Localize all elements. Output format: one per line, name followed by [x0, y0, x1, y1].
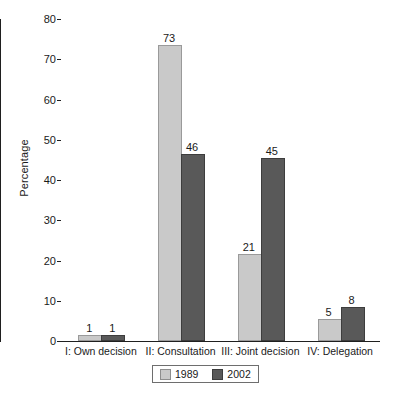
bar — [341, 307, 365, 341]
y-axis-tick-label: 20 — [0, 256, 56, 266]
legend-label: 2002 — [227, 369, 250, 380]
y-axis-tick-label: 80 — [0, 14, 56, 24]
chart-legend: 19892002 — [152, 365, 259, 383]
x-axis-line — [61, 341, 380, 342]
bar-value-label: 45 — [255, 146, 289, 157]
bar — [158, 45, 182, 341]
bar — [318, 319, 342, 341]
y-axis-tick-label: 30 — [0, 215, 56, 225]
bar — [101, 335, 125, 341]
y-axis-tick-mark — [57, 341, 61, 342]
y-axis-tick-label: 40 — [0, 175, 56, 185]
y-axis-tick-label: 70 — [0, 54, 56, 64]
bar-value-label: 8 — [335, 295, 369, 306]
y-axis-tick-label: 50 — [0, 135, 56, 145]
y-axis-tick-label: 60 — [0, 95, 56, 105]
bar-value-label: 73 — [152, 33, 186, 44]
legend-swatch-icon — [212, 369, 223, 380]
legend-swatch-icon — [160, 369, 171, 380]
plot-area: 117346214558 — [61, 19, 380, 341]
bar — [238, 254, 262, 341]
legend-label: 1989 — [175, 369, 198, 380]
legend-entry: 2002 — [212, 369, 250, 380]
bar-value-label: 1 — [95, 323, 129, 334]
bar-chart: Percentage 01020304050607080 11734621455… — [0, 0, 399, 404]
bar-value-label: 46 — [175, 142, 209, 153]
legend-entry: 1989 — [160, 369, 198, 380]
bar — [261, 158, 285, 341]
bar — [78, 335, 102, 341]
y-axis-tick-label: 10 — [0, 296, 56, 306]
bar — [181, 154, 205, 341]
x-axis-category-label: IV: Delegation — [280, 345, 399, 358]
